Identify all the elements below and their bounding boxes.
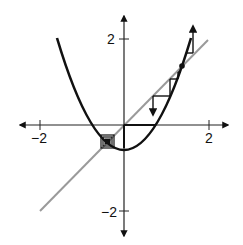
x-label-neg2: −2 xyxy=(31,131,47,145)
x-label-pos2: 2 xyxy=(205,131,213,145)
repelling-fixed-point-dot xyxy=(179,63,185,69)
diverging-cobweb xyxy=(153,26,193,115)
attracting-fixed-point-squares xyxy=(101,135,114,148)
y-label-neg2: −2 xyxy=(101,205,117,219)
plot-canvas xyxy=(0,0,243,245)
cobweb-diagram: −2 2 2 −2 xyxy=(0,0,243,245)
y-label-pos2: 2 xyxy=(107,32,115,46)
